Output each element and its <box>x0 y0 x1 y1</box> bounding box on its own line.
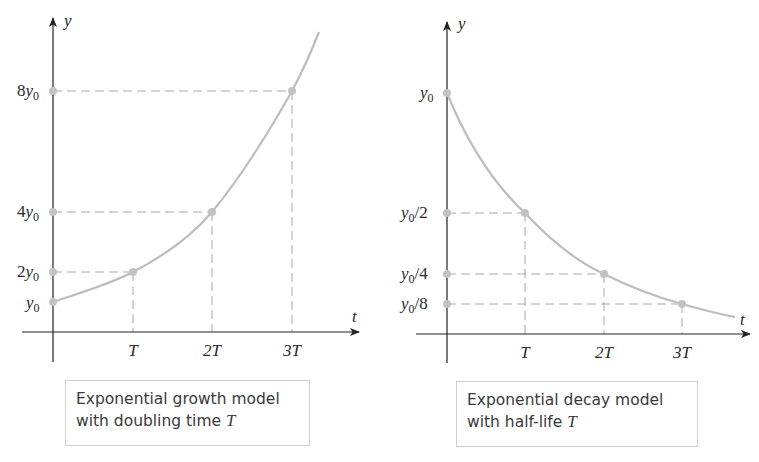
decay-caption-line1: Exponential decay model <box>467 390 697 411</box>
decay-y-tick-y0-half: y0/2 <box>399 203 428 225</box>
decay-x-tick-2T: 2T <box>595 343 615 362</box>
decay-chart: y t y0 y0/2 y0/4 y0/8 T 2T 3T <box>399 14 750 363</box>
growth-caption-line2: with doubling time T <box>76 410 309 432</box>
decay-curve <box>447 93 735 317</box>
growth-y-tick-y0: y0 <box>24 293 40 315</box>
decay-x-tick-T: T <box>520 343 531 362</box>
growth-caption-line1: Exponential growth model <box>76 389 309 410</box>
decay-data-points <box>443 89 686 308</box>
decay-caption-variable: T <box>567 412 576 431</box>
decay-x-axis-label: t <box>740 310 746 329</box>
growth-x-tick-2T: 2T <box>203 341 223 360</box>
growth-guide-lines <box>53 91 292 332</box>
growth-y-tick-8y0: 8y0 <box>17 81 39 103</box>
growth-x-tick-3T: 3T <box>282 341 303 360</box>
growth-y-axis-label: y <box>62 11 72 30</box>
growth-x-tick-T: T <box>128 341 139 360</box>
decay-y-tick-y0: y0 <box>418 83 434 105</box>
growth-chart: y t y0 2y0 4y0 8y0 T 2T 3T <box>17 11 359 362</box>
growth-curve <box>53 32 319 302</box>
decay-y-tick-y0-eighth: y0/8 <box>399 294 428 316</box>
decay-guide-lines <box>447 213 682 334</box>
decay-caption: Exponential decay model with half-life T <box>456 381 698 447</box>
growth-caption-line2-text: with doubling time <box>76 412 226 430</box>
growth-y-tick-4y0: 4y0 <box>17 202 39 224</box>
growth-caption-variable: T <box>226 411 235 430</box>
decay-y-tick-y0-quarter: y0/4 <box>399 264 428 286</box>
growth-x-axis-label: t <box>352 307 358 326</box>
growth-data-points <box>49 87 296 306</box>
decay-y-axis-label: y <box>456 14 466 33</box>
decay-caption-line2: with half-life T <box>467 411 697 433</box>
growth-y-tick-2y0: 2y0 <box>17 262 39 284</box>
decay-x-tick-3T: 3T <box>672 343 693 362</box>
decay-caption-line2-text: with half-life <box>467 413 567 431</box>
growth-caption: Exponential growth model with doubling t… <box>65 380 310 446</box>
